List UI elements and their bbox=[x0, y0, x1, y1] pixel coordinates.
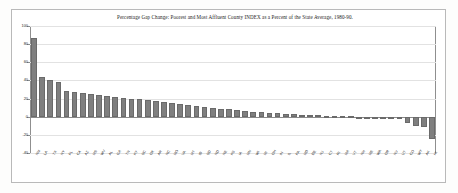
bar bbox=[226, 109, 232, 116]
bar bbox=[283, 114, 289, 117]
x-axis-label: AL bbox=[108, 150, 114, 156]
x-axis-label: IA bbox=[238, 151, 243, 156]
bar bbox=[299, 115, 305, 117]
x-axis-label: MS bbox=[92, 149, 98, 156]
x-axis-label: IL bbox=[287, 151, 292, 156]
bar bbox=[121, 98, 127, 117]
bar bbox=[88, 94, 94, 117]
x-axis-label: WY bbox=[417, 149, 423, 156]
bar bbox=[177, 104, 183, 117]
x-axis-label: NJ bbox=[319, 150, 325, 156]
bar bbox=[340, 116, 346, 118]
bar bbox=[39, 77, 45, 117]
x-axis-label: WI bbox=[255, 150, 261, 156]
x-axis-label: OK bbox=[149, 149, 155, 156]
x-axis-label: NH bbox=[360, 149, 366, 156]
bar bbox=[112, 97, 118, 117]
y-tick-label: 20 bbox=[13, 97, 28, 101]
x-axis-label: ID bbox=[198, 151, 203, 156]
x-axis-label: NY bbox=[60, 150, 66, 156]
x-axis-label: VA bbox=[181, 150, 187, 156]
x-axis-label: AK bbox=[425, 150, 431, 156]
x-axis-label: NV bbox=[393, 150, 399, 156]
x-axis-label: KY bbox=[133, 150, 139, 156]
x-axis-label: PA bbox=[295, 150, 301, 156]
bar bbox=[169, 103, 175, 117]
bar bbox=[388, 117, 394, 119]
x-axis-label: RI bbox=[336, 151, 341, 156]
bar bbox=[291, 114, 297, 117]
bar bbox=[348, 116, 354, 118]
x-axis-label: ND bbox=[214, 149, 220, 156]
x-axis-label: MI bbox=[263, 151, 268, 156]
bar bbox=[194, 106, 200, 117]
bar bbox=[429, 117, 435, 140]
x-axis-label: VT bbox=[352, 150, 358, 156]
x-axis-label: FL bbox=[68, 150, 74, 156]
bar bbox=[234, 110, 240, 116]
bar bbox=[372, 117, 378, 119]
x-axis-label: TN bbox=[125, 150, 131, 156]
bar bbox=[413, 117, 419, 126]
bar bbox=[332, 116, 338, 118]
chart-title: Percentage Gap Change: Poorest and Most … bbox=[40, 14, 430, 21]
bar bbox=[267, 113, 273, 117]
bar bbox=[129, 99, 135, 117]
x-axis-label: AR bbox=[157, 150, 163, 156]
y-tick-label: 80 bbox=[13, 42, 28, 46]
bar bbox=[259, 112, 265, 117]
bar bbox=[31, 38, 37, 117]
bar bbox=[275, 113, 281, 117]
bar bbox=[185, 105, 191, 117]
bar-series bbox=[30, 26, 436, 153]
bar bbox=[64, 91, 70, 116]
bar bbox=[364, 117, 370, 119]
bar bbox=[137, 99, 143, 116]
bar bbox=[315, 115, 321, 117]
x-axis-label: MA bbox=[344, 149, 350, 156]
bar bbox=[161, 102, 167, 117]
bar bbox=[218, 109, 224, 117]
y-tick-label: 0 bbox=[13, 115, 28, 119]
bar bbox=[397, 117, 403, 119]
x-axis-label: NE bbox=[222, 150, 228, 156]
x-axis-label: IN bbox=[279, 151, 284, 156]
y-tick-label: 40 bbox=[13, 78, 28, 82]
bar bbox=[405, 117, 411, 123]
bar bbox=[250, 112, 256, 117]
bar bbox=[307, 115, 313, 117]
bar bbox=[153, 101, 159, 116]
x-axis-label: CT bbox=[328, 150, 334, 156]
bar bbox=[96, 95, 102, 117]
bar bbox=[47, 80, 53, 116]
x-axis-label: KS bbox=[230, 150, 236, 156]
bar bbox=[380, 117, 386, 119]
x-axis-label: AZ bbox=[84, 150, 90, 156]
bar bbox=[242, 111, 248, 116]
bar bbox=[421, 117, 427, 127]
x-axis-labels: NMLATXNYFLCAAZMSWVALGATNKYSCOKARNCMOVAMT… bbox=[30, 154, 436, 188]
bar bbox=[104, 96, 110, 117]
x-axis-label: CA bbox=[76, 150, 82, 156]
x-axis-label: NC bbox=[165, 149, 171, 156]
x-axis-label: SC bbox=[141, 150, 147, 156]
bar bbox=[324, 116, 330, 118]
y-tick-label: 60 bbox=[13, 60, 28, 64]
x-axis-label: CO bbox=[409, 149, 415, 156]
chart-figure: Percentage Gap Change: Poorest and Most … bbox=[0, 0, 458, 193]
bar bbox=[56, 82, 62, 116]
y-tick-label: -20 bbox=[13, 133, 28, 137]
bar bbox=[145, 100, 151, 116]
bar bbox=[356, 117, 362, 119]
x-axis-label: LA bbox=[43, 150, 49, 156]
x-axis-label: TX bbox=[52, 150, 58, 156]
x-axis-label: UT bbox=[401, 150, 407, 156]
x-axis-label: SD bbox=[206, 150, 212, 156]
bar bbox=[202, 107, 208, 117]
y-tick-label: 100 bbox=[13, 24, 28, 28]
bar bbox=[72, 92, 78, 116]
bar bbox=[80, 93, 86, 117]
y-tick-label: -40 bbox=[13, 151, 28, 155]
bar bbox=[210, 108, 216, 117]
x-axis-label: OH bbox=[271, 149, 277, 156]
